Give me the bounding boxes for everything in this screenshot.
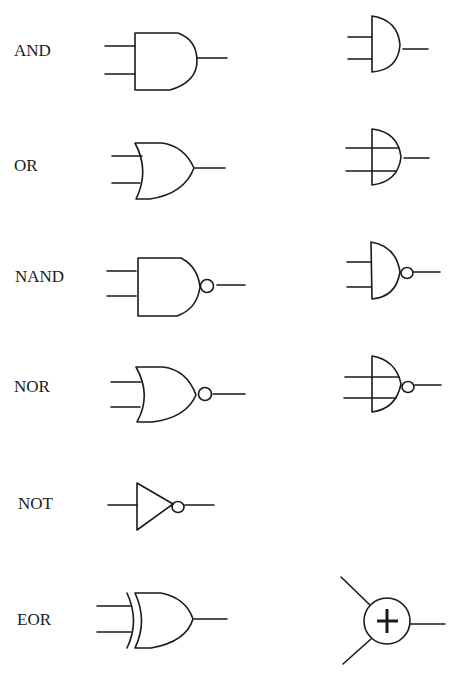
nand-gate-icon bbox=[107, 258, 245, 316]
nor-gate-alt-icon bbox=[344, 356, 441, 412]
not-gate-icon bbox=[108, 483, 214, 530]
gate-symbols bbox=[0, 0, 468, 694]
nor-gate-icon bbox=[111, 367, 245, 422]
eor-gate-icon bbox=[97, 593, 227, 648]
nand-gate-alt-icon bbox=[347, 242, 440, 299]
and-gate-icon bbox=[105, 33, 227, 90]
logic-gates-diagram: AND OR NAND NOR NOT EOR bbox=[0, 0, 468, 694]
or-gate-icon bbox=[112, 143, 225, 199]
and-gate-alt-icon bbox=[348, 16, 428, 72]
or-gate-alt-icon bbox=[346, 129, 429, 185]
xor-circle-plus-icon bbox=[341, 577, 445, 664]
